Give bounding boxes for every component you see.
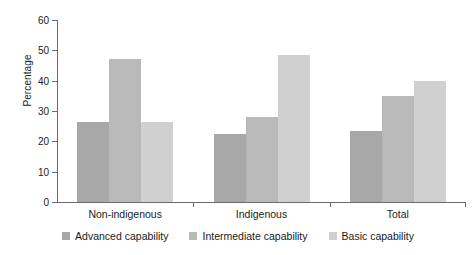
- x-axis-tick: [193, 202, 194, 207]
- y-axis-tick-label: 30: [38, 106, 49, 117]
- y-axis-tick: [52, 81, 57, 82]
- bar-chart: Percentage 0102030405060 Non-indigenousI…: [0, 0, 476, 255]
- legend-label: Advanced capability: [75, 230, 168, 242]
- legend-swatch-icon: [62, 232, 70, 240]
- bar: [278, 55, 310, 202]
- y-axis-title: Percentage: [22, 21, 33, 141]
- legend-item: Intermediate capability: [189, 230, 307, 242]
- legend-item: Advanced capability: [62, 230, 168, 242]
- x-axis-tick: [465, 202, 466, 207]
- y-axis-tick-label: 10: [38, 166, 49, 177]
- x-axis-category-label: Total: [387, 208, 409, 220]
- chart-legend: Advanced capabilityIntermediate capabili…: [0, 230, 476, 242]
- y-axis-tick: [52, 50, 57, 51]
- y-axis-tick-label: 0: [43, 197, 49, 208]
- y-axis-tick: [52, 20, 57, 21]
- y-axis-tick-label: 50: [38, 45, 49, 56]
- y-axis-tick: [52, 202, 57, 203]
- y-axis-tick-label: 60: [38, 15, 49, 26]
- bar: [414, 81, 446, 202]
- legend-item: Basic capability: [329, 230, 414, 242]
- bar: [77, 122, 109, 202]
- legend-swatch-icon: [329, 232, 337, 240]
- bar: [141, 122, 173, 202]
- bar: [246, 117, 278, 202]
- x-axis-tick: [330, 202, 331, 207]
- bar: [214, 134, 246, 202]
- bar: [382, 96, 414, 202]
- y-axis-line: [57, 20, 58, 202]
- y-axis-tick-label: 20: [38, 136, 49, 147]
- plot-area: 0102030405060 Non-indigenousIndigenousTo…: [57, 20, 466, 202]
- x-axis-category-label: Non-indigenous: [88, 208, 162, 220]
- y-axis-tick: [52, 172, 57, 173]
- y-axis-tick: [52, 111, 57, 112]
- legend-label: Basic capability: [342, 230, 414, 242]
- bar: [350, 131, 382, 202]
- x-axis-category-label: Indigenous: [236, 208, 287, 220]
- legend-label: Intermediate capability: [202, 230, 307, 242]
- y-axis-tick: [52, 141, 57, 142]
- bar: [109, 59, 141, 202]
- legend-swatch-icon: [189, 232, 197, 240]
- x-axis-line: [57, 202, 466, 203]
- y-axis-tick-label: 40: [38, 75, 49, 86]
